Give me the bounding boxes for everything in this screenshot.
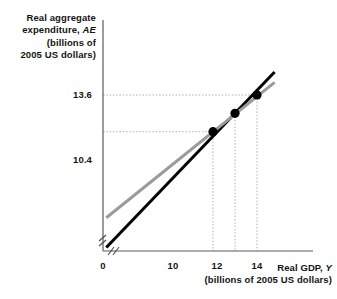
line-aggregate-expenditure	[106, 82, 274, 217]
data-point-marker-2	[252, 90, 261, 99]
data-point-marker-1	[230, 109, 239, 118]
data-point-marker-0	[208, 127, 217, 136]
plot-area	[0, 0, 337, 299]
line-45-degree	[106, 72, 274, 248]
data-points	[208, 90, 261, 136]
data-series	[106, 72, 274, 248]
chart-figure: Real aggregate expenditure, AE (billions…	[0, 0, 337, 299]
